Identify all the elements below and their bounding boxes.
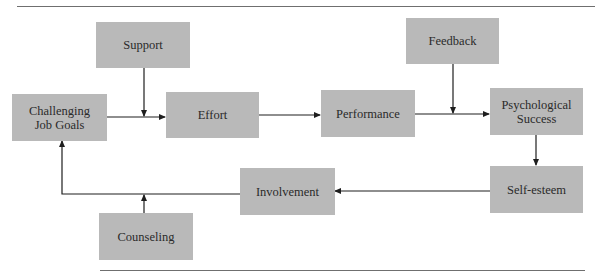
node-label: Self-esteem bbox=[507, 183, 566, 197]
node-psychological-success: Psychological Success bbox=[490, 88, 583, 135]
node-counseling: Counseling bbox=[99, 213, 193, 260]
node-label: Feedback bbox=[429, 34, 477, 48]
node-support: Support bbox=[96, 22, 190, 68]
node-self-esteem: Self-esteem bbox=[490, 166, 583, 213]
node-label: Support bbox=[123, 38, 163, 52]
node-label: Psychological Success bbox=[497, 98, 577, 126]
node-label: Performance bbox=[336, 107, 400, 121]
node-effort: Effort bbox=[166, 92, 259, 138]
arrow-involvement-to-goals bbox=[62, 141, 240, 194]
node-label: Involvement bbox=[256, 185, 319, 199]
node-label: Challenging Job Goals bbox=[24, 104, 96, 132]
node-label: Counseling bbox=[118, 230, 175, 244]
node-feedback: Feedback bbox=[406, 18, 499, 64]
node-challenging-job-goals: Challenging Job Goals bbox=[12, 94, 107, 141]
node-involvement: Involvement bbox=[240, 168, 335, 215]
node-label: Effort bbox=[198, 108, 228, 122]
node-performance: Performance bbox=[321, 90, 415, 137]
